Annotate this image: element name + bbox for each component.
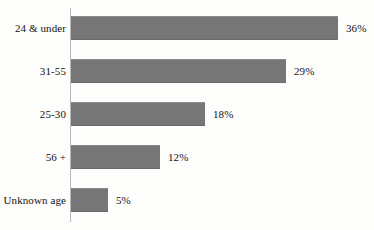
bar-value-label: 36%: [346, 16, 366, 40]
category-label: 25-30: [40, 102, 66, 126]
bar-chart: 24 & under36%31-5529%25-3018%56 +12%Unkn…: [0, 0, 374, 230]
bar: [71, 102, 205, 126]
bar-row: 24 & under36%: [0, 16, 374, 40]
bar-value-label: 5%: [116, 188, 131, 212]
bar-value-label: 12%: [168, 145, 188, 169]
bar-row: 31-5529%: [0, 59, 374, 83]
category-label: 24 & under: [15, 16, 66, 40]
bar: [71, 59, 286, 83]
bar-value-label: 18%: [213, 102, 233, 126]
bar: [71, 188, 108, 212]
bar: [71, 145, 160, 169]
category-label: 31-55: [40, 59, 66, 83]
category-label: Unknown age: [3, 188, 66, 212]
bar-row: Unknown age5%: [0, 188, 374, 212]
bar-row: 56 +12%: [0, 145, 374, 169]
category-label: 56 +: [46, 145, 66, 169]
bar-row: 25-3018%: [0, 102, 374, 126]
bar-value-label: 29%: [294, 59, 314, 83]
bar: [71, 16, 338, 40]
